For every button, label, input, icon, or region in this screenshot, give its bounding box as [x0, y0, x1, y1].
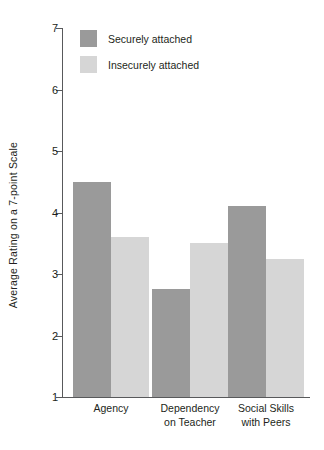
bar-insecurely-attached [111, 237, 149, 397]
plot-area: 1234567 AgencyDependency on TeacherSocia… [62, 28, 310, 398]
y-tick-label: 4 [52, 207, 58, 218]
y-tick-label: 7 [52, 23, 58, 34]
category-label: Social Skills with Peers [216, 402, 316, 429]
y-axis-title: Average Rating on a 7-point Scale [0, 0, 26, 450]
x-axis-line [62, 397, 310, 398]
bar-chart-figure: Average Rating on a 7-point Scale 123456… [0, 0, 324, 450]
legend-swatch-icon [80, 30, 97, 47]
bar-securely-attached [73, 182, 111, 397]
bar-insecurely-attached [266, 259, 304, 397]
legend-item: Insecurely attached [80, 56, 199, 73]
bar-insecurely-attached [190, 243, 228, 397]
legend-label: Insecurely attached [108, 59, 199, 71]
legend-item: Securely attached [80, 30, 199, 47]
chart-legend: Securely attachedInsecurely attached [80, 30, 199, 82]
y-tick-label: 3 [52, 269, 58, 280]
y-tick-label: 6 [52, 84, 58, 95]
bar-securely-attached [152, 289, 190, 397]
y-tick-label: 1 [52, 392, 58, 403]
legend-swatch-icon [80, 56, 97, 73]
bar-securely-attached [228, 206, 266, 397]
y-tick-label: 2 [52, 330, 58, 341]
legend-label: Securely attached [108, 33, 192, 45]
y-tick-label: 5 [52, 146, 58, 157]
